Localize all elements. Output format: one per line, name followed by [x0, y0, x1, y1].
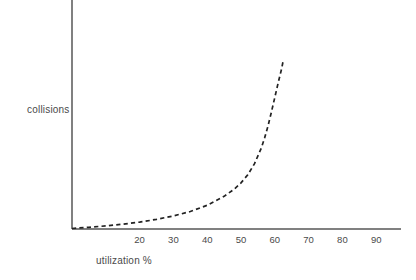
x-tick-label-40: 40: [196, 234, 218, 245]
x-tick-label-90: 90: [365, 234, 387, 245]
y-axis-label: collisions: [27, 104, 70, 115]
x-axis-label: utilization %: [96, 255, 152, 266]
x-tick-label-50: 50: [230, 234, 252, 245]
x-tick-label-20: 20: [129, 234, 151, 245]
chart-canvas: collisions utilization % 203040506070809…: [0, 0, 416, 280]
x-tick-label-80: 80: [331, 234, 353, 245]
collisions-curve: [72, 60, 283, 228]
x-tick-label-70: 70: [298, 234, 320, 245]
x-tick-label-30: 30: [162, 234, 184, 245]
x-tick-label-60: 60: [264, 234, 286, 245]
